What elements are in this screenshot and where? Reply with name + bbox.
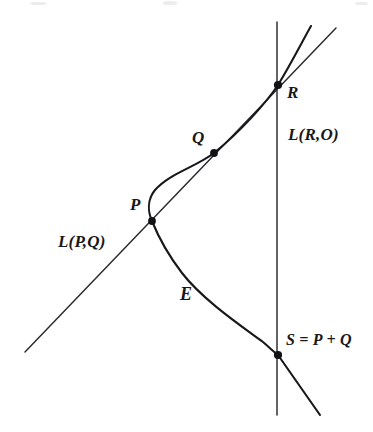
label-point-R: R xyxy=(287,84,299,101)
diagram-canvas xyxy=(0,0,373,432)
label-point-S: S = P + Q xyxy=(286,332,352,348)
label-point-P: P xyxy=(130,196,141,213)
label-curve-E: E xyxy=(180,285,192,303)
figure-background xyxy=(0,0,373,432)
scan-artifact-speck xyxy=(355,2,368,5)
label-point-Q: Q xyxy=(192,129,204,146)
label-line-RO: L(R,O) xyxy=(288,126,339,143)
scan-artifact-speck xyxy=(30,2,46,5)
point-marker-P xyxy=(148,217,156,225)
point-marker-S xyxy=(274,351,282,359)
label-line-PQ: L(P,Q) xyxy=(58,233,106,250)
point-marker-R xyxy=(274,81,282,89)
elliptic-curve-figure: R L(R,O) Q P L(P,Q) E S = P + Q xyxy=(0,0,373,432)
scan-artifact-speck xyxy=(163,1,177,5)
point-marker-Q xyxy=(210,149,218,157)
